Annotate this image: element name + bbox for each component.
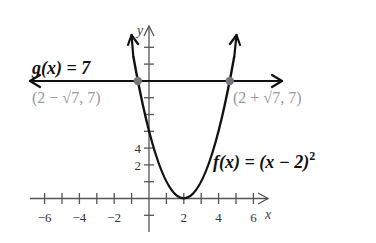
y-tick-label: 2 bbox=[135, 158, 142, 173]
x-tick-label: 6 bbox=[250, 210, 257, 225]
point-label-right: (2 + √7, 7) bbox=[233, 89, 301, 107]
y-axis-label: y bbox=[135, 23, 144, 38]
x-tick-label: 2 bbox=[181, 210, 188, 225]
y-tick-label: 4 bbox=[135, 141, 142, 156]
function-graph: −6 −4 −2 2 4 6 x 2 4 y g(x) = 7 (2 − √7,… bbox=[0, 0, 376, 243]
g-equation-label: g(x) = 7 bbox=[31, 58, 91, 79]
x-axis-label: x bbox=[264, 207, 272, 222]
f-equation-label: f(x) = (x − 2)2 bbox=[213, 149, 315, 173]
x-tick-label: −6 bbox=[38, 210, 52, 225]
point-label-left: (2 − √7, 7) bbox=[32, 89, 100, 107]
parabola-arrows bbox=[128, 35, 240, 56]
intersection-point-right bbox=[226, 77, 234, 85]
x-tick-label: −4 bbox=[72, 210, 86, 225]
intersection-point-left bbox=[134, 77, 142, 85]
x-tick-label: −2 bbox=[107, 210, 121, 225]
x-tick-label: 4 bbox=[215, 210, 222, 225]
